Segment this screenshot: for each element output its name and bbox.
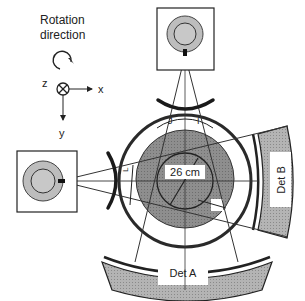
axis-y-label: y [59, 127, 65, 139]
i-label: I [197, 116, 200, 126]
axis-x-label: x [98, 83, 104, 95]
rotation-arrow-icon [53, 51, 74, 69]
l-label: L [121, 167, 130, 172]
rotation-label-line1: Rotation [40, 13, 85, 27]
top-collimator [158, 100, 213, 109]
det-b-label: Det B [275, 166, 287, 194]
axis-triad-icon [57, 83, 92, 120]
axis-z-label: z [42, 77, 48, 89]
left-collimator [108, 153, 116, 208]
top-xray-source [157, 8, 214, 70]
left-xray-source [17, 151, 77, 212]
diameter-label: 26 cm [170, 166, 200, 178]
det-a-label: Det A [170, 267, 198, 279]
j-label: J [168, 116, 173, 126]
ct-geometry-diagram: Rotation direction z x y Det A Det B [0, 0, 305, 301]
detector-b [253, 126, 293, 238]
rotation-label-line2: direction [40, 28, 85, 42]
